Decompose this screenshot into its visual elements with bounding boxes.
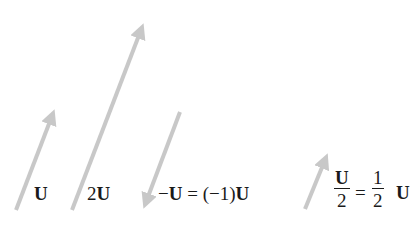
equals-text: = [355,182,366,203]
label-neg-one-factor: = (−1) [182,183,235,204]
label-neg-u-vector: U [169,183,183,204]
label-neg-u: −U = (−1)U [158,184,249,203]
label-2u-vector: U [97,183,111,204]
label-2u: 2U [87,184,110,203]
fraction-numerator-1: 1 [372,168,384,188]
label-2u-scalar: 2 [87,183,97,204]
fraction-numerator-u: U [334,168,350,188]
label-u-text: U [34,183,48,204]
fraction-one-half: 1 2 [372,168,384,210]
fraction-denominator-2: 2 [337,189,347,210]
vector-half-u-arrow [305,160,325,209]
fraction-u-over-2: U 2 [334,168,350,210]
label-u: U [34,184,48,203]
equals-sign: = [355,183,366,202]
label-neg-u-vector2: U [236,183,250,204]
label-half-u-vector: U [396,183,410,202]
label-neg-sign: − [158,183,169,204]
fraction-denominator-2: 2 [373,189,383,210]
label-half-u-text: U [396,182,410,203]
